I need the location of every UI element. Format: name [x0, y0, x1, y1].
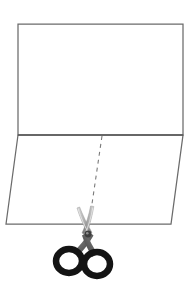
upper-paper-rectangle: [18, 24, 183, 135]
lower-paper-flap: [6, 135, 183, 224]
scissor-pivot-highlight: [86, 232, 89, 235]
paper-cut-diagram: [0, 0, 192, 299]
diagram-canvas: Paper fold and cut diagram: [0, 0, 192, 299]
